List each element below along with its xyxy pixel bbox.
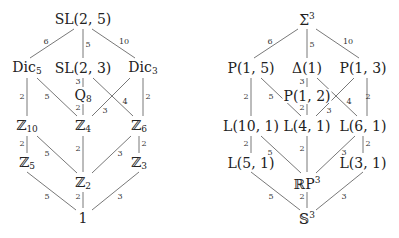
edge-label: 2 xyxy=(299,145,304,153)
edge-label: 6 xyxy=(267,38,272,46)
edge-label: 5 xyxy=(309,41,314,49)
edge-label: 5 xyxy=(44,93,49,101)
node-q8: Q8 xyxy=(73,88,92,104)
edge-label: 3 xyxy=(341,193,346,201)
node-label: Dic xyxy=(12,59,36,75)
edge-label: 5 xyxy=(85,41,90,49)
edge-label: 3 xyxy=(117,193,122,201)
node-sigma3: Σ3 xyxy=(298,12,316,27)
node-z5: ℤ5 xyxy=(18,155,36,171)
node-z4: ℤ4 xyxy=(74,118,92,134)
node-label: L(3, 1) xyxy=(340,155,387,171)
edge-label: 3 xyxy=(341,149,346,157)
node-subscript: 6 xyxy=(141,124,147,134)
edge-label: 2 xyxy=(75,193,80,201)
edge-label: 3 xyxy=(326,107,331,115)
node-l41: L(4, 1) xyxy=(283,119,332,133)
node-label: Q xyxy=(74,87,85,103)
node-l61: L(6, 1) xyxy=(339,119,388,133)
node-delta1: Δ(1) xyxy=(291,61,323,75)
node-p12: P(1, 2) xyxy=(282,89,331,103)
node-trivial: 1 xyxy=(78,211,89,225)
edge-label: 5 xyxy=(268,193,273,201)
edge-label: 3 xyxy=(299,78,304,86)
node-subscript: 5 xyxy=(29,161,35,171)
edge-label: 2 xyxy=(141,140,146,148)
edge-label: 3 xyxy=(102,107,107,115)
node-dic3: Dic3 xyxy=(127,60,158,76)
node-label: SL(2, 3) xyxy=(55,60,112,76)
edge-label: 5 xyxy=(44,150,49,158)
node-label: ℤ xyxy=(75,117,85,133)
node-subscript: 3 xyxy=(152,66,158,76)
node-label: 𝕊 xyxy=(299,211,309,227)
node-superscript: 3 xyxy=(309,210,315,220)
node-subscript: 4 xyxy=(85,124,91,134)
node-label: P(1, 3) xyxy=(339,60,386,76)
node-subscript: 8 xyxy=(86,94,92,104)
node-label: ℤ xyxy=(19,154,29,170)
edge-label: 2 xyxy=(299,193,304,201)
edge-label: 2 xyxy=(299,104,304,112)
node-subscript: 3 xyxy=(141,161,147,171)
edge-label: 2 xyxy=(19,140,24,148)
node-label: SL(2, 5) xyxy=(55,11,112,27)
edge-label: 10 xyxy=(119,38,129,46)
node-label: Δ(1) xyxy=(292,60,322,76)
node-p13: P(1, 3) xyxy=(338,61,387,75)
node-l101: L(10, 1) xyxy=(222,119,280,133)
node-label: L(6, 1) xyxy=(340,118,387,134)
node-z6: ℤ6 xyxy=(130,118,148,134)
node-z10: ℤ10 xyxy=(15,118,39,134)
node-label: P(1, 2) xyxy=(283,88,330,104)
edge-label: 2 xyxy=(365,140,370,148)
edge-label: 5 xyxy=(267,149,272,157)
edge-label: 4 xyxy=(122,98,127,106)
node-label: ℤ xyxy=(131,154,141,170)
node-dic5: Dic5 xyxy=(11,60,42,76)
node-sl23: SL(2, 3) xyxy=(54,61,113,75)
node-label: Dic xyxy=(128,59,152,75)
node-subscript: 10 xyxy=(26,124,37,134)
node-z2: ℤ2 xyxy=(74,175,92,191)
node-label: ℤ xyxy=(75,174,85,190)
node-rp3: ℝP3 xyxy=(293,176,322,191)
edge-label: 2 xyxy=(19,93,24,101)
edge-label: 5 xyxy=(44,193,49,201)
node-sl25: SL(2, 5) xyxy=(54,12,113,26)
node-label: L(5, 1) xyxy=(228,155,275,171)
node-subscript: 2 xyxy=(85,181,91,191)
edge-label: 3 xyxy=(75,78,80,86)
node-label: P(1, 5) xyxy=(227,60,274,76)
node-label: L(4, 1) xyxy=(284,118,331,134)
edge-label: 2 xyxy=(75,104,80,112)
node-label: 1 xyxy=(79,210,88,226)
node-superscript: 3 xyxy=(309,11,315,21)
node-s3: 𝕊3 xyxy=(298,211,316,226)
edge-label: 6 xyxy=(43,38,48,46)
edge-label: 2 xyxy=(145,93,150,101)
node-l31: L(3, 1) xyxy=(339,156,388,170)
edge-label: 2 xyxy=(365,93,370,101)
edge-label: 2 xyxy=(243,140,248,148)
edge-label: 2 xyxy=(243,93,248,101)
node-label: ℝP xyxy=(294,176,315,192)
edge-label: 3 xyxy=(117,150,122,158)
node-label: L(10, 1) xyxy=(223,118,279,134)
edge-label: 2 xyxy=(75,145,80,153)
edge-label: 5 xyxy=(268,93,273,101)
node-label: Σ xyxy=(299,12,309,28)
edge-label: 4 xyxy=(346,98,351,106)
edge-label: 10 xyxy=(343,38,353,46)
node-label: ℤ xyxy=(16,117,26,133)
node-superscript: 3 xyxy=(315,175,321,185)
node-subscript: 5 xyxy=(36,66,42,76)
node-z3: ℤ3 xyxy=(130,155,148,171)
node-p15: P(1, 5) xyxy=(226,61,275,75)
node-l51: L(5, 1) xyxy=(227,156,276,170)
node-label: ℤ xyxy=(131,117,141,133)
